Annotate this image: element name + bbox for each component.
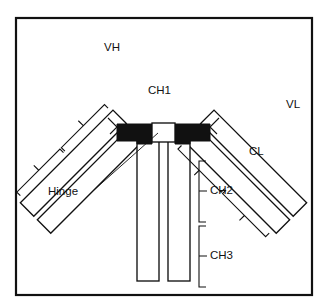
stem-right-heavy-chain-bar	[168, 137, 190, 281]
hinge-label: Hinge	[48, 185, 78, 197]
figure-border	[16, 18, 312, 295]
ch1-label: CH1	[148, 84, 171, 96]
ch3-label: CH3	[210, 249, 233, 261]
ch3-bracket	[199, 226, 207, 287]
stem-left-heavy-chain-bar	[137, 137, 159, 281]
vl-label: VL	[286, 98, 301, 110]
ch2-label: CH2	[210, 184, 233, 196]
antibody-structure-svg: VH CH1 VL CL Hinge CH2 CH3	[0, 0, 327, 308]
hinge-center-core	[152, 123, 175, 142]
hinge-right-wedge	[175, 124, 210, 144]
cl-label: CL	[249, 145, 264, 157]
hinge-left-wedge	[117, 124, 152, 144]
antibody-diagram: VH CH1 VL CL Hinge CH2 CH3	[0, 0, 327, 308]
ch2-bracket	[199, 161, 207, 222]
vh-label: VH	[104, 41, 120, 53]
